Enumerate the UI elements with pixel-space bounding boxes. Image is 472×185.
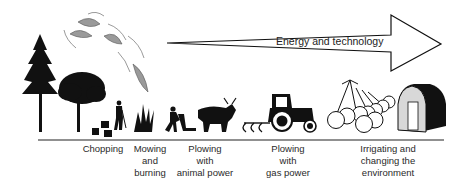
stumps-icon bbox=[92, 121, 112, 137]
irrigation-icon bbox=[328, 80, 396, 133]
greenhouse-icon bbox=[398, 84, 446, 132]
stage-label-mowing-burning: Mowing and burning bbox=[128, 143, 172, 179]
pine-tree-icon bbox=[22, 34, 58, 132]
ox-plow-icon bbox=[165, 98, 236, 132]
plow-teeth-icon bbox=[243, 123, 270, 132]
fire-icon bbox=[134, 104, 154, 132]
stage-label-plowing-animal: Plowing with animal power bbox=[172, 143, 238, 179]
tractor-icon bbox=[268, 94, 316, 132]
broadleaf-tree-icon bbox=[58, 72, 106, 132]
stage-label-irrigating: Irrigating and changing the environment bbox=[352, 143, 424, 179]
arrow-label: Energy and technology bbox=[276, 35, 383, 47]
person-chopping-icon bbox=[114, 101, 126, 130]
stage-label-chopping: Chopping bbox=[75, 143, 131, 155]
stage-label-plowing-gas: Plowing with gas power bbox=[258, 143, 318, 179]
